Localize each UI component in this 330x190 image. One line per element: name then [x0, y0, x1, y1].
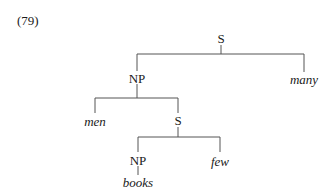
node-s-root: S: [217, 32, 224, 45]
node-s-embedded: S: [174, 114, 181, 127]
tree-edges: [0, 0, 330, 190]
node-np-embedded: NP: [130, 154, 147, 167]
node-np: NP: [129, 72, 146, 85]
leaf-few: few: [211, 155, 229, 168]
leaf-many: many: [290, 73, 318, 86]
leaf-men: men: [84, 115, 106, 128]
leaf-books: books: [123, 176, 153, 189]
